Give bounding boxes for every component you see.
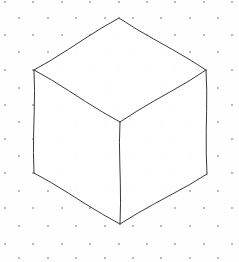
grid-dot	[4, 138, 6, 140]
grid-dot	[4, 172, 6, 174]
grid-dot	[18, 257, 20, 259]
grid-dot	[132, 257, 134, 259]
grid-dot	[174, 34, 176, 36]
grid-dot	[203, 1, 205, 3]
grid-dot	[231, 104, 233, 106]
grid-dot	[217, 51, 219, 53]
grid-dot	[32, 34, 34, 36]
grid-dot	[32, 104, 34, 106]
grid-dot	[47, 17, 49, 19]
grid-dot	[18, 155, 20, 157]
grid-dot	[18, 121, 20, 123]
grid-dot	[47, 51, 49, 53]
grid-dot	[89, 1, 91, 3]
grid-dot	[217, 257, 219, 259]
grid-dot	[189, 225, 191, 227]
grid-dot	[203, 243, 205, 245]
grid-dot	[18, 17, 20, 19]
grid-dot	[231, 243, 233, 245]
grid-dot	[189, 257, 191, 259]
grid-dot	[32, 243, 34, 245]
grid-dot	[174, 243, 176, 245]
grid-dot	[18, 87, 20, 89]
grid-dot	[231, 69, 233, 71]
grid-dot	[231, 138, 233, 140]
grid-dot	[189, 190, 191, 192]
grid-dot	[217, 190, 219, 192]
grid-dot	[231, 172, 233, 174]
grid-dot	[75, 17, 77, 19]
grid-dot	[174, 207, 176, 209]
grid-dot	[132, 17, 134, 19]
grid-dot	[203, 207, 205, 209]
right-upper-to-right-lower	[206, 70, 207, 174]
grid-dot	[4, 243, 6, 245]
grid-dot	[4, 1, 6, 3]
grid-dot	[47, 225, 49, 227]
grid-dot	[4, 104, 6, 106]
grid-dot	[18, 225, 20, 227]
grid-dot	[104, 17, 106, 19]
grid-dot	[32, 207, 34, 209]
grid-dot	[174, 1, 176, 3]
grid-dot	[104, 225, 106, 227]
grid-dot	[217, 155, 219, 157]
grid-dot	[61, 243, 63, 245]
grid-dot	[160, 257, 162, 259]
grid-dot	[75, 257, 77, 259]
grid-dot	[217, 225, 219, 227]
grid-dot	[4, 69, 6, 71]
grid-dot	[4, 34, 6, 36]
grid-dot	[217, 87, 219, 89]
grid-dot	[104, 257, 106, 259]
drawing-canvas	[0, 0, 239, 262]
grid-dot	[146, 1, 148, 3]
grid-dot	[89, 243, 91, 245]
grid-dot	[61, 34, 63, 36]
grid-dot	[231, 34, 233, 36]
grid-dot	[18, 190, 20, 192]
grid-dot	[203, 34, 205, 36]
grid-dot	[75, 225, 77, 227]
grid-dot	[4, 207, 6, 209]
grid-dot	[118, 243, 120, 245]
grid-dot	[18, 51, 20, 53]
grid-dot	[160, 17, 162, 19]
grid-dot	[118, 1, 120, 3]
grid-dot	[47, 257, 49, 259]
grid-dot	[61, 207, 63, 209]
grid-dot	[47, 190, 49, 192]
grid-dot	[231, 207, 233, 209]
grid-dot	[189, 17, 191, 19]
grid-dot	[132, 225, 134, 227]
grid-dot	[217, 121, 219, 123]
grid-dot	[61, 1, 63, 3]
grid-dot	[189, 51, 191, 53]
grid-dot	[160, 225, 162, 227]
grid-dot	[217, 17, 219, 19]
grid-dot	[146, 243, 148, 245]
grid-dot	[32, 1, 34, 3]
grid-dot	[231, 1, 233, 3]
isometric-cube-figure	[0, 0, 239, 262]
